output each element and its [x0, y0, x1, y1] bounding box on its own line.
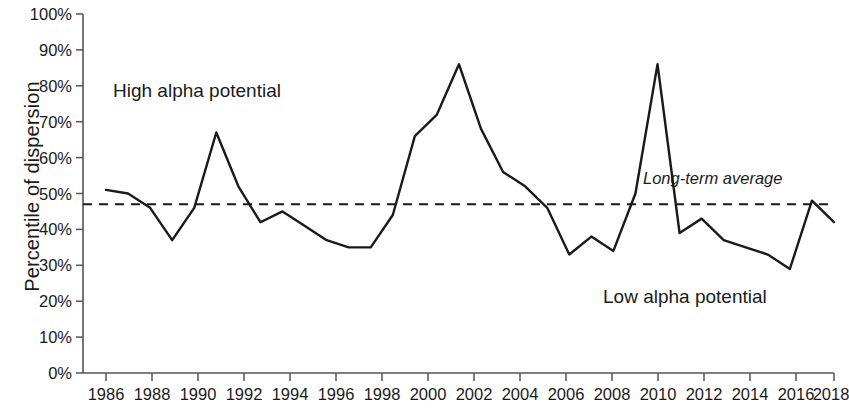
- x-axis-ticks: [106, 373, 834, 381]
- x-tick-label: 1992: [226, 385, 263, 404]
- x-tick-label: 1988: [134, 385, 171, 404]
- x-tick-label: 1998: [364, 385, 401, 404]
- x-tick-label: 1986: [88, 385, 125, 404]
- x-tick-label: 1994: [272, 385, 309, 404]
- x-tick-label: 1990: [180, 385, 217, 404]
- annotation-high-alpha-potential: High alpha potential: [113, 80, 281, 102]
- x-tick-label: 1996: [318, 385, 355, 404]
- x-tick-label: 2018: [813, 385, 849, 404]
- annotation-low-alpha-potential: Low alpha potential: [603, 286, 767, 308]
- y-axis-ticks: [76, 14, 83, 373]
- x-tick-label: 2004: [502, 385, 539, 404]
- x-tick-label: 2002: [456, 385, 493, 404]
- x-tick-label: 2014: [732, 385, 769, 404]
- x-tick-label: 2006: [548, 385, 585, 404]
- x-tick-label: 2008: [594, 385, 631, 404]
- x-tick-label: 2010: [640, 385, 677, 404]
- annotation-long-term-average: Long-term average: [643, 169, 782, 188]
- x-tick-label: 2000: [410, 385, 447, 404]
- x-tick-label: 2012: [686, 385, 723, 404]
- x-tick-label: 2016: [778, 385, 815, 404]
